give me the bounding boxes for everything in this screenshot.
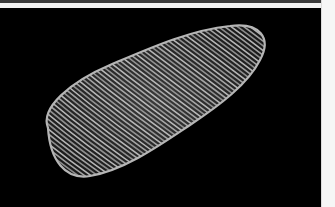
- right-frame-margin: [321, 0, 335, 207]
- coral-image: [0, 8, 321, 207]
- photo: [0, 8, 321, 207]
